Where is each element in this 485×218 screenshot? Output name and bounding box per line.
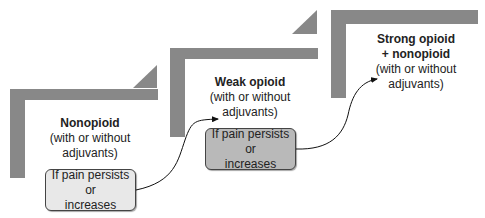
arrows-layer	[0, 0, 485, 218]
arrow-step1-to-step2	[136, 119, 218, 190]
arrow-step2-to-step3	[296, 79, 377, 149]
